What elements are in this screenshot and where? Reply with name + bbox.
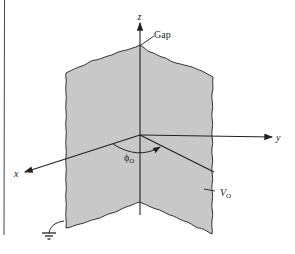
y-axis-label: y	[275, 132, 281, 143]
ground-wire	[49, 221, 64, 233]
conducting-plates	[66, 45, 213, 234]
wedge-diagram: z Gap y x ϕO VO	[0, 0, 295, 254]
diagram-canvas: z Gap y x ϕO VO	[0, 0, 295, 254]
gap-label: Gap	[154, 29, 171, 40]
vo-label: VO	[220, 187, 231, 200]
z-axis-label: z	[137, 11, 142, 22]
x-axis-label: x	[13, 168, 19, 179]
gap-leader	[141, 36, 154, 45]
ground-icon	[42, 233, 56, 239]
page-margin-rule	[4, 0, 5, 235]
